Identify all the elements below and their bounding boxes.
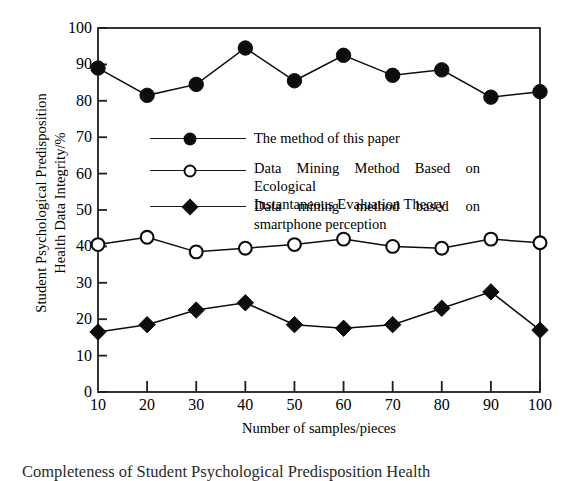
plot-area (0, 0, 575, 481)
legend-symbol-filled-circle-icon (150, 129, 246, 149)
chart-figure: Student Psychological Predisposition Hea… (0, 0, 575, 481)
data-point (239, 242, 252, 255)
legend-symbol-open-circle-icon (150, 159, 246, 179)
data-point (435, 242, 448, 255)
data-series-1 (92, 231, 547, 258)
legend-label-0: The method of this paper (254, 129, 480, 147)
data-series-2 (90, 284, 548, 340)
data-point (189, 77, 203, 91)
data-point (90, 324, 106, 340)
legend-item-1: Data Mining Method Based on Ecological I… (150, 159, 480, 197)
data-point (484, 90, 498, 104)
data-point (384, 316, 400, 332)
series-line-0 (98, 48, 540, 97)
legend-symbol-filled-diamond-icon (150, 197, 246, 217)
data-point (385, 68, 399, 82)
legend-item-2: Data mining method based on smartphone p… (150, 197, 480, 235)
data-series-0 (91, 41, 547, 105)
chart-legend: The method of this paper Data Mining Met… (150, 129, 480, 235)
data-point (237, 295, 253, 311)
data-point (335, 320, 351, 336)
legend-item-0: The method of this paper (150, 129, 480, 159)
data-point (386, 240, 399, 253)
legend-label-1-line1: Data Mining Method Based on Ecological (254, 159, 480, 195)
data-point (435, 63, 449, 77)
data-point (484, 233, 497, 246)
data-point (483, 284, 499, 300)
x-axis-title: Number of samples/pieces (98, 419, 540, 437)
data-point (286, 316, 302, 332)
data-point (139, 316, 155, 332)
data-point (238, 41, 252, 55)
data-point (534, 236, 547, 249)
data-point (91, 61, 105, 75)
legend-label-2-line1: Data mining method based on (254, 197, 480, 215)
data-point (532, 322, 548, 338)
data-point (533, 85, 547, 99)
data-point (92, 238, 105, 251)
data-point (336, 48, 350, 62)
legend-label-2: Data mining method based on smartphone p… (254, 197, 480, 233)
data-point (188, 302, 204, 318)
series-line-2 (98, 292, 540, 332)
figure-caption: Completeness of Student Psychological Pr… (22, 462, 567, 481)
data-point (288, 238, 301, 251)
data-point (140, 88, 154, 102)
legend-label-2-line2: smartphone perception (254, 216, 386, 232)
series-line-1 (98, 237, 540, 252)
data-point (190, 245, 203, 258)
data-point (434, 300, 450, 316)
data-point (287, 74, 301, 88)
